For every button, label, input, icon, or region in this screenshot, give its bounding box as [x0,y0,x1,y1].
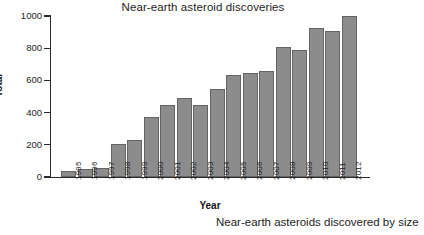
x-tick-label-1998: 1998 [123,161,132,180]
y-tick-label-400: 400 [6,107,42,118]
x-tick-label-1995: 1995 [74,161,83,180]
figure-caption: Near-earth asteroids discovered by size [216,216,419,228]
chart-title: Near-earth asteroid discoveries [88,1,318,13]
bar-2012 [342,16,357,177]
x-tick-label-2000: 2000 [156,161,165,180]
x-tick-label-2002: 2002 [189,161,198,180]
y-tick-label-800: 800 [6,42,42,53]
x-axis-title: Year [50,200,370,211]
y-tick-label-600: 600 [6,74,42,85]
x-tick-label-2008: 2008 [288,161,297,180]
y-tick-label-0: 0 [6,171,42,182]
x-tick-label-2001: 2001 [173,161,182,180]
plot-area [50,16,370,177]
y-tick-label-1000: 1000 [6,10,42,21]
x-tick-label-1997: 1997 [107,161,116,180]
bar-2011 [325,31,340,178]
x-tick-label-2005: 2005 [239,161,248,180]
x-tick-label-2003: 2003 [206,161,215,180]
bar-2010 [309,28,324,177]
x-tick-label-2010: 2010 [321,161,330,180]
x-tick-label-2011: 2011 [338,162,347,180]
x-tick-label-2004: 2004 [222,161,231,180]
x-tick-label-2006: 2006 [255,161,264,180]
x-tick-label-2007: 2007 [272,161,281,180]
y-tick-label-200: 200 [6,139,42,150]
asteroid-discoveries-figure: Near-earth asteroid discoveries Total Ye… [0,0,424,235]
x-tick-label-1996: 1996 [90,161,99,180]
bar-2008 [276,47,291,177]
bar-2009 [292,50,307,177]
x-tick-label-2012: 2012 [354,161,363,180]
y-axis-title: Total [0,74,4,97]
x-tick-label-2009: 2009 [305,161,314,180]
x-tick-label-1999: 1999 [140,161,149,180]
